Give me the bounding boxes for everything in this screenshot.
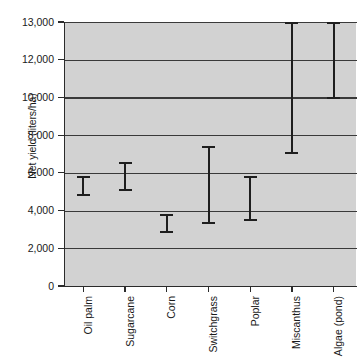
x-tick-label-poplar: Poplar — [249, 296, 260, 326]
errorbar-oil-palm — [73, 176, 93, 197]
x-tick-poplar — [250, 286, 251, 292]
x-tick-switchgrass — [208, 286, 209, 292]
y-tick-label-13000: 13,000 — [0, 17, 54, 27]
y-tick-label-10000: 10,000 — [0, 92, 54, 102]
x-tick-label-corn: Corn — [166, 296, 177, 319]
errorbar-stem — [124, 162, 126, 190]
y-tick-label-0: 0 — [0, 281, 54, 291]
chart-root: Net yield (liters/ha) 02,0004,0006,0008,… — [0, 0, 360, 364]
errorbar-cap-upper — [160, 214, 173, 216]
y-tick-label-2000: 2,000 — [0, 243, 54, 253]
errorbar-cap-upper — [77, 176, 90, 178]
errorbar-sugarcane — [115, 162, 135, 190]
y-tick-10000 — [58, 97, 64, 98]
x-axis-line — [64, 286, 357, 287]
errorbar-cap-lower — [327, 97, 340, 99]
errorbar-cap-upper — [202, 146, 215, 148]
gridline-12000 — [65, 60, 357, 61]
y-tick-4000 — [58, 210, 64, 211]
y-tick-label-4000: 4,000 — [0, 205, 54, 215]
errorbar-cap-lower — [119, 189, 132, 191]
errorbar-stem — [82, 176, 84, 197]
errorbar-cap-lower — [160, 231, 173, 233]
errorbar-cap-upper — [327, 22, 340, 24]
errorbar-cap-upper — [244, 176, 257, 178]
errorbar-cap-lower — [285, 152, 298, 154]
y-tick-label-12000: 12,000 — [0, 54, 54, 64]
gridline-2000 — [65, 248, 357, 249]
gridline-8000 — [65, 135, 357, 136]
x-tick-label-oil-palm: Oil palm — [82, 296, 93, 335]
errorbar-stem — [291, 22, 293, 154]
gridline-10000 — [65, 97, 357, 98]
errorbar-stem — [333, 22, 335, 99]
y-tick-label-8000: 8,000 — [0, 130, 54, 140]
x-tick-oil-palm — [83, 286, 84, 292]
errorbar-switchgrass — [199, 146, 219, 223]
x-tick-label-miscanthus: Miscanthus — [291, 296, 302, 349]
errorbar-algae-pond — [324, 22, 344, 99]
y-tick-2000 — [58, 248, 64, 249]
y-tick-label-6000: 6,000 — [0, 167, 54, 177]
errorbar-corn — [157, 214, 177, 233]
x-tick-label-algae-pond: Algae (pond) — [333, 296, 344, 356]
errorbar-miscanthus — [282, 22, 302, 154]
errorbar-cap-lower — [77, 194, 90, 196]
y-tick-13000 — [58, 21, 64, 22]
x-tick-label-switchgrass: Switchgrass — [208, 296, 219, 353]
errorbar-stem — [249, 176, 251, 221]
x-tick-label-sugarcane: Sugarcane — [124, 296, 135, 347]
x-tick-sugarcane — [124, 286, 125, 292]
errorbar-cap-lower — [244, 219, 257, 221]
y-tick-12000 — [58, 59, 64, 60]
errorbar-stem — [208, 146, 210, 223]
errorbar-cap-lower — [202, 222, 215, 224]
gridline-13000 — [65, 22, 357, 23]
y-tick-0 — [58, 285, 64, 286]
y-tick-8000 — [58, 135, 64, 136]
x-tick-corn — [166, 286, 167, 292]
y-tick-6000 — [58, 172, 64, 173]
errorbar-cap-upper — [285, 22, 298, 24]
errorbar-cap-upper — [119, 162, 132, 164]
x-tick-miscanthus — [291, 286, 292, 292]
x-tick-algae-pond — [333, 286, 334, 292]
errorbar-poplar — [240, 176, 260, 221]
